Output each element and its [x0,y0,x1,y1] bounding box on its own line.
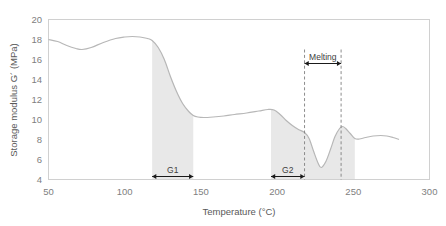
arrow-head-melting-right [337,61,341,66]
y-tick-16: 16 [31,54,42,65]
x-tick-50: 50 [43,186,54,197]
x-tick-250: 250 [345,186,361,197]
y-axis-tick-labels: 468101214161820 [31,14,42,185]
y-tick-10: 10 [31,114,42,125]
figure-container: 50100150200250300 468101214161820 G1G2Me… [0,0,446,226]
y-axis-title: Storage modulus G´ (MPa) [8,43,19,157]
y-tick-18: 18 [31,34,42,45]
y-tick-20: 20 [31,14,42,25]
annotation-label-melting: Melting [309,52,337,62]
annotation-label-g2: G2 [282,165,294,175]
annotation-label-g1: G1 [167,165,179,175]
y-tick-4: 4 [37,174,42,185]
x-axis-tick-labels: 50100150200250300 [43,186,437,197]
arrow-head-melting-left [305,61,309,66]
y-tick-8: 8 [37,134,42,145]
x-axis-title: Temperature (°C) [203,206,276,217]
y-tick-12: 12 [31,94,42,105]
x-tick-200: 200 [269,186,285,197]
x-tick-150: 150 [193,186,209,197]
y-tick-14: 14 [31,74,42,85]
y-tick-6: 6 [37,154,42,165]
plot-frame [49,20,430,180]
x-tick-100: 100 [117,186,133,197]
x-tick-300: 300 [422,186,438,197]
storage-modulus-chart: 50100150200250300 468101214161820 G1G2Me… [0,0,446,226]
